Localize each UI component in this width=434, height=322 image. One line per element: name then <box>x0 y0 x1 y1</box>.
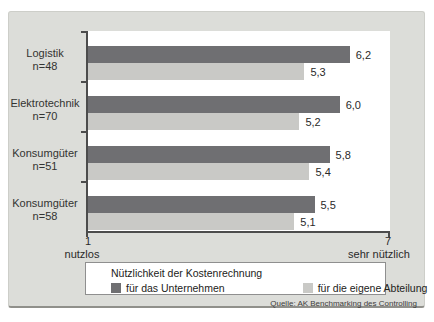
y-axis-tick <box>81 181 86 183</box>
bar <box>88 96 340 113</box>
legend-entry-unternehmen: für das Unternehmen <box>111 282 225 294</box>
bar-value-label: 5,8 <box>336 149 351 161</box>
x-axis-tick <box>388 233 390 237</box>
bar-value-label: 6,0 <box>346 99 361 111</box>
bar-row: 6,2 <box>88 46 390 63</box>
y-axis-tick <box>81 81 86 83</box>
bar-group: 6,05,2Elektrotechnikn=70 <box>88 81 390 131</box>
bar-value-label: 5,1 <box>300 216 315 228</box>
legend-title: Nützlichkeit der Kostenrechnung <box>111 267 385 279</box>
legend-row: für das Unternehmen für die eigene Abtei… <box>111 282 385 294</box>
plot-area: 6,25,3Logistikn=486,05,2Elektrotechnikn=… <box>86 31 390 233</box>
bar-group: 5,55,1Konsumgütern=58 <box>88 181 390 231</box>
x-axis-min-caption: nutzlos <box>65 248 100 260</box>
bar <box>88 146 330 163</box>
bar-row: 5,2 <box>88 113 390 130</box>
bar-row: 5,8 <box>88 146 390 163</box>
x-axis-max-caption: sehr nützlich <box>348 248 410 260</box>
bar-group: 5,85,4Konsumgütern=51 <box>88 131 390 181</box>
chart-card: 6,25,3Logistikn=486,05,2Elektrotechnikn=… <box>8 11 425 308</box>
bar-value-label: 6,2 <box>356 49 371 61</box>
x-axis-tick <box>86 233 88 237</box>
category-label: Logistikn=48 <box>9 47 81 73</box>
bar <box>88 163 309 180</box>
bar-group: 6,25,3Logistikn=48 <box>88 31 390 81</box>
bar <box>88 46 350 63</box>
bar-row: 6,0 <box>88 96 390 113</box>
category-label: Konsumgütern=51 <box>9 147 81 173</box>
bar-value-label: 5,2 <box>305 116 320 128</box>
legend-label-unternehmen: für das Unternehmen <box>126 282 225 294</box>
bar-value-label: 5,3 <box>310 66 325 78</box>
bar-groups: 6,25,3Logistikn=486,05,2Elektrotechnikn=… <box>88 31 390 231</box>
bar-row: 5,5 <box>88 196 390 213</box>
legend-box: Nützlichkeit der Kostenrechnung für das … <box>85 262 386 295</box>
bar <box>88 196 315 213</box>
bar-value-label: 5,5 <box>321 199 336 211</box>
bar <box>88 63 304 80</box>
y-axis-tick <box>81 131 86 133</box>
legend-swatch-dark-icon <box>111 283 121 293</box>
legend-label-abteilung: für die eigene Abteilung <box>318 282 428 294</box>
legend-entry-abteilung: für die eigene Abteilung <box>303 282 428 294</box>
legend-swatch-light-icon <box>303 283 313 293</box>
bar-row: 5,3 <box>88 63 390 80</box>
bar <box>88 113 299 130</box>
bar <box>88 213 294 230</box>
category-label: Elektrotechnikn=70 <box>9 97 81 123</box>
category-label: Konsumgütern=58 <box>9 197 81 223</box>
bar-row: 5,4 <box>88 163 390 180</box>
bar-value-label: 5,4 <box>315 166 330 178</box>
bar-row: 5,1 <box>88 213 390 230</box>
y-axis-tick <box>81 31 86 33</box>
source-note: Quelle: AK Benchmarking des Controlling <box>270 299 417 308</box>
